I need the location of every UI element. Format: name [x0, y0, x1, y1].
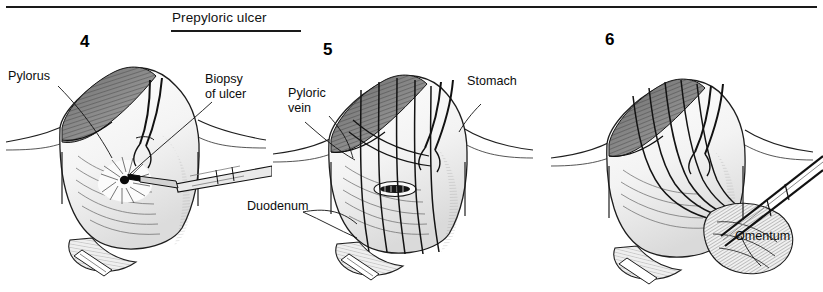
panel-6: 6: [545, 24, 823, 286]
panel-4-illustration: [0, 24, 272, 286]
top-divider-rule: [6, 6, 817, 8]
panel-number: 4: [80, 32, 89, 52]
label-stomach: Stomach: [467, 74, 517, 89]
panel-5: 5: [245, 24, 545, 286]
surgical-figure: Prepyloric ulcer 4: [0, 0, 823, 292]
label-biopsy-of-ulcer: Biopsy of ulcer: [205, 72, 246, 101]
panel-number: 6: [605, 30, 614, 50]
label-pylorus: Pylorus: [8, 69, 50, 84]
panel-4: 4: [0, 24, 272, 286]
label-pyloric-vein: Pyloric vein: [288, 86, 326, 115]
panel-6-illustration: [545, 24, 823, 286]
panel-number: 5: [323, 40, 332, 60]
label-duodenum: Duodenum: [247, 199, 309, 214]
label-omentum: Omentum: [735, 229, 790, 244]
panel-5-illustration: [245, 24, 545, 286]
figure-title: Prepyloric ulcer: [172, 10, 267, 25]
